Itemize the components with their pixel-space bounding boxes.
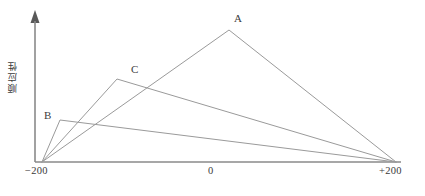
curve-b-line bbox=[42, 120, 396, 162]
curve-a-line bbox=[42, 30, 396, 162]
curve-label-b: B bbox=[44, 109, 51, 121]
curve-label-c: C bbox=[131, 63, 138, 75]
y-axis-title: 顺应性 bbox=[7, 60, 21, 93]
x-axis-tick-label-left: −200 bbox=[25, 165, 48, 176]
curve-label-a: A bbox=[234, 12, 242, 24]
x-axis-tick-label-center: 0 bbox=[208, 165, 214, 176]
chart-container: 顺应性 −200 0 +200 A C B bbox=[0, 0, 425, 196]
x-axis-tick-label-right: +200 bbox=[379, 165, 402, 176]
